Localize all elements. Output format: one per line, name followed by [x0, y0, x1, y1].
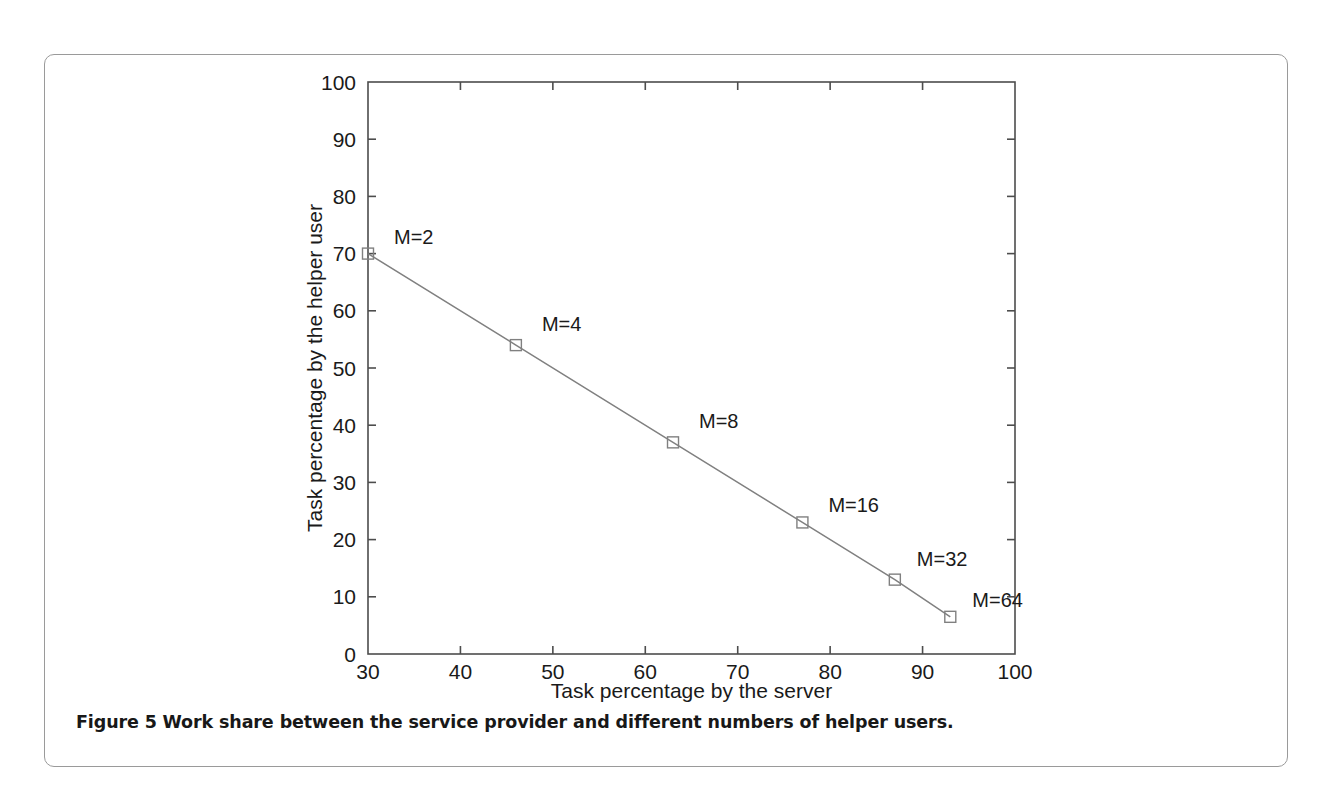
- figure-caption-label: Figure 5: [76, 712, 157, 732]
- figure-caption: Figure 5 Work share between the service …: [76, 712, 1236, 734]
- figure-frame: [44, 54, 1288, 767]
- figure-caption-text: Work share between the service provider …: [162, 712, 953, 732]
